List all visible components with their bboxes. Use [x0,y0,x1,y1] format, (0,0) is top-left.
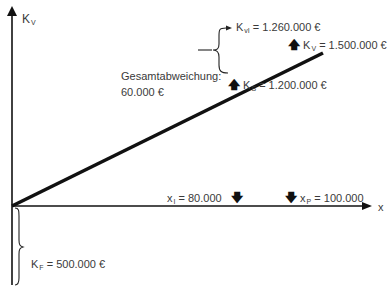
kf-annotation: KF = 500.000 € [31,258,105,274]
xi-sub: I [174,198,176,205]
y-axis-label: KV [22,13,36,29]
xp-sub: P [307,198,312,205]
deviation-brace [213,28,228,73]
xi-main: x [167,192,173,204]
kvi-main: K [236,21,243,33]
ks-sub: S [251,85,256,92]
total-deviation-label: Gesamtabweichung: [121,70,221,82]
ks-value: = 1.200.000 € [259,79,327,91]
x-axis-label: x [378,201,384,213]
kf-value: = 500.000 € [47,258,105,270]
kf-main: K [31,258,38,270]
kv-sub: V [311,45,316,52]
up-arrow-icon: 🡅 [228,78,240,92]
ks-annotation: 🡅 KS = 1.200.000 € [228,79,327,95]
ks-main: K [243,79,250,91]
y-axis-label-sub: V [31,19,36,26]
down-arrow-icon: 🡇 [231,191,243,205]
y-axis-arrow-icon [7,6,17,16]
xp-main: x [300,192,306,204]
kv-main: K [303,39,310,51]
kvi-annotation: KvI = 1.260.000 € [236,21,320,37]
y-axis-label-main: K [22,12,30,26]
xi-value: = 80.000 [179,192,222,204]
kv-annotation: 🡅 KV = 1.500.000 € [288,39,387,55]
xp-value: = 100.000 [314,192,363,204]
kf-sub: F [39,264,43,271]
fixed-cost-brace [15,208,23,285]
total-deviation-value: 60.000 € [121,86,164,98]
up-arrow-icon: 🡅 [288,38,300,52]
xi-annotation: xI = 80.000 🡇 [167,192,243,208]
xp-annotation: 🡇 xP = 100.000 [285,192,364,208]
down-arrow-icon: 🡇 [285,191,297,205]
kvi-value: = 1.260.000 € [253,21,321,33]
kvi-pointer-arrow-icon [226,26,232,31]
kv-value: = 1.500.000 € [319,39,387,51]
kvi-sub: vI [244,27,249,34]
